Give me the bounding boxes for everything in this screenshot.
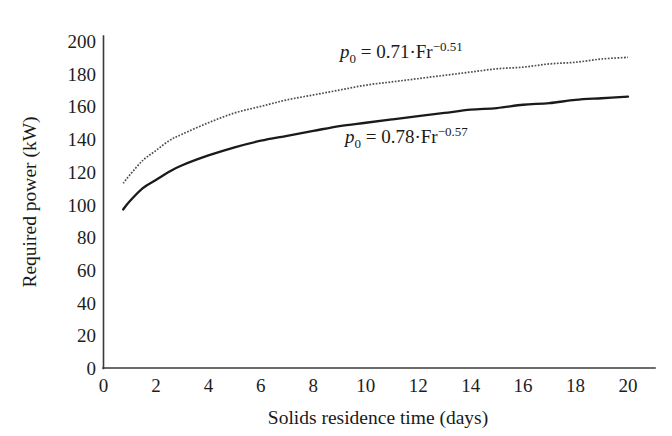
x-tick-label: 14 xyxy=(461,375,481,396)
x-tick-label: 10 xyxy=(356,375,375,396)
series-line-upper-dotted xyxy=(123,57,628,183)
chart-canvas: 020406080100120140160180200 024681012141… xyxy=(0,0,672,436)
y-tick-label: 20 xyxy=(77,325,96,346)
x-tick-label: 4 xyxy=(204,375,214,396)
y-tick-label: 0 xyxy=(87,358,97,379)
x-tick-label: 16 xyxy=(514,375,533,396)
y-tick-label: 60 xyxy=(77,260,96,281)
chart-figure: 020406080100120140160180200 024681012141… xyxy=(0,0,672,436)
y-tick-label: 120 xyxy=(68,162,97,183)
x-tick-label: 20 xyxy=(619,375,638,396)
x-tick-label: 0 xyxy=(99,375,109,396)
y-tick-label: 180 xyxy=(68,64,97,85)
y-axis-title: Required power (kW) xyxy=(19,116,41,287)
x-tick-label: 2 xyxy=(151,375,161,396)
y-tick-label: 80 xyxy=(77,227,96,248)
x-tick-label: 6 xyxy=(256,375,266,396)
x-tick-label: 18 xyxy=(566,375,585,396)
y-tick-label: 40 xyxy=(77,293,96,314)
y-tick-label: 200 xyxy=(68,31,97,52)
series-line-lower-solid xyxy=(123,97,628,210)
x-tick-label: 8 xyxy=(309,375,319,396)
annotation-lower-equation: p0 = 0.78·Fr−0.57 xyxy=(343,124,468,151)
x-axis-title: Solids residence time (days) xyxy=(268,407,488,429)
y-tick-label: 100 xyxy=(68,195,97,216)
y-tick-label: 140 xyxy=(68,129,97,150)
y-tick-label: 160 xyxy=(68,96,97,117)
x-tick-label: 12 xyxy=(409,375,428,396)
y-axis-tick-labels: 020406080100120140160180200 xyxy=(68,31,97,379)
x-axis-tick-labels: 02468101214161820 xyxy=(99,375,638,396)
annotation-upper-equation: p0 = 0.71·Fr−0.51 xyxy=(338,39,463,66)
